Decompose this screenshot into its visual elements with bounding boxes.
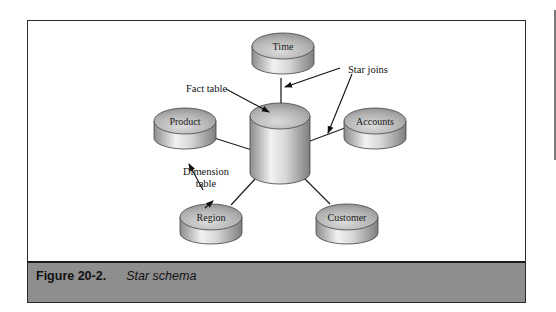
dimension-label-region: Region (197, 212, 226, 223)
dimension-cylinder-region: Region (180, 204, 242, 244)
dimension-cylinder-accounts: Accounts (344, 108, 406, 149)
fact-table-cylinder (250, 103, 310, 184)
join-line-product (211, 137, 252, 150)
star-schema-diagram: Time Product Accounts Region Customer Fa… (0, 0, 556, 312)
dimension-cylinder-customer: Customer (316, 204, 378, 244)
join-line-accounts (310, 128, 345, 141)
dimension-cylinder-product: Product (154, 108, 216, 149)
dimension-label-product: Product (169, 116, 200, 127)
arrow-fact-table (226, 89, 269, 112)
annotation-dimension-line2: table (196, 178, 217, 189)
join-line-region (231, 178, 256, 205)
dimension-cylinder-time: Time (252, 33, 314, 74)
annotation-dimension-line1: Dimension (183, 166, 230, 177)
annotation-star-joins: Star joins (348, 64, 388, 75)
annotation-fact-table: Fact table (186, 83, 227, 94)
join-line-customer (304, 178, 330, 204)
dimension-label-customer: Customer (328, 212, 368, 223)
dimension-label-accounts: Accounts (356, 116, 394, 127)
dimension-label-time: Time (273, 41, 294, 52)
